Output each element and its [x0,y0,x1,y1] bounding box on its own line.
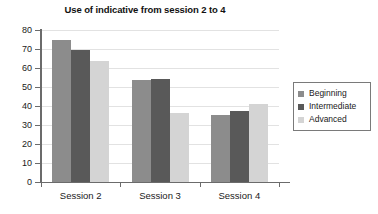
bar-chart: Use of indicative from session 2 to 4 01… [0,0,378,214]
y-axis-tick-label: 80 [0,25,32,35]
legend-swatch-icon [298,91,304,97]
legend-swatch-icon [298,117,304,123]
y-axis-tick-label: 50 [0,82,32,92]
x-axis-category-label: Session 2 [41,190,120,201]
bar [132,80,151,182]
x-axis-tick [200,182,201,187]
legend-label: Advanced [309,115,347,124]
legend-label: Intermediate [309,102,356,111]
y-axis-tick-label: 20 [0,139,32,149]
bar [90,61,109,182]
bar [151,79,170,182]
y-axis-tick-label: 40 [0,101,32,111]
y-axis-tick-label: 70 [0,44,32,54]
chart-title: Use of indicative from session 2 to 4 [0,4,290,15]
x-axis-tick [120,182,121,187]
bar [71,50,90,182]
y-axis-tick-label: 0 [0,177,32,187]
y-axis-tick-label: 30 [0,120,32,130]
plot-area [41,30,279,182]
legend-item[interactable]: Intermediate [298,100,367,113]
x-axis-tick [41,182,42,187]
y-axis-tick-label: 60 [0,63,32,73]
bar [170,113,189,182]
y-axis-tick-label: 10 [0,158,32,168]
legend-item[interactable]: Advanced [298,113,367,126]
bar [211,115,230,182]
bar [230,111,249,182]
x-axis-category-label: Session 3 [120,190,199,201]
legend-item[interactable]: Beginning [298,87,367,100]
bar [52,40,71,182]
legend-label: Beginning [309,89,347,98]
x-axis-tick [279,182,280,187]
legend-swatch-icon [298,104,304,110]
chart-legend: BeginningIntermediateAdvanced [293,82,371,131]
bar [249,104,268,182]
x-axis-category-label: Session 4 [200,190,279,201]
